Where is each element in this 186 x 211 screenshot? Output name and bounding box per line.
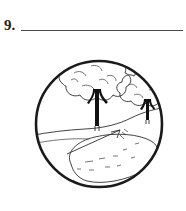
- ground-contour: [73, 175, 163, 200]
- worksheet-item: 9. Two leafy trees on a grassy hill abov…: [0, 0, 186, 211]
- illustration-figure: Two leafy trees on a grassy hill above a…: [27, 40, 177, 208]
- tree-small: [117, 71, 175, 124]
- illustration-canvas: [27, 40, 177, 208]
- arrow-upper: [67, 129, 128, 154]
- answer-line[interactable]: [21, 30, 183, 31]
- question-row: 9.: [0, 16, 186, 38]
- pond-oval: [69, 134, 158, 182]
- illustration-scene: [29, 55, 175, 200]
- question-number: 9.: [4, 16, 15, 34]
